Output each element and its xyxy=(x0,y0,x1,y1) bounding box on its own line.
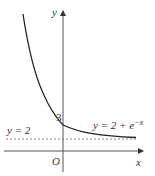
graph: y x O 3 y = 2 y = 2 + e−x xyxy=(0,0,155,176)
curve-label: y = 2 + e−x xyxy=(92,118,144,131)
y-intercept-label: 3 xyxy=(56,111,62,123)
y-axis-label: y xyxy=(51,6,57,18)
asymptote-label: y = 2 xyxy=(6,124,31,136)
x-axis-label: x xyxy=(135,156,141,168)
origin-label: O xyxy=(52,155,60,167)
